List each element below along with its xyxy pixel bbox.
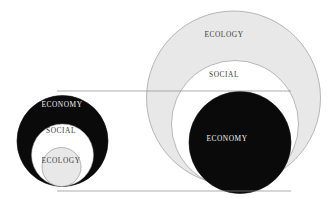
left-label-social: SOCIAL: [46, 126, 76, 135]
left-ring-ecology-inner: [42, 148, 81, 187]
diagram-left-economy-dominant: ECONOMY SOCIAL ECOLOGY: [17, 96, 108, 187]
figure-canvas: ECONOMY SOCIAL ECOLOGY ECOLOGY SOCIAL EC…: [0, 0, 328, 206]
nested-circles-figure: ECONOMY SOCIAL ECOLOGY ECOLOGY SOCIAL EC…: [0, 0, 328, 206]
right-label-economy: ECONOMY: [206, 134, 247, 143]
left-label-economy: ECONOMY: [41, 100, 82, 109]
right-label-social: SOCIAL: [209, 70, 239, 79]
diagram-right-ecology-dominant: ECOLOGY SOCIAL ECONOMY: [147, 11, 321, 194]
left-label-ecology: ECOLOGY: [41, 156, 80, 165]
right-label-ecology: ECOLOGY: [204, 30, 243, 39]
